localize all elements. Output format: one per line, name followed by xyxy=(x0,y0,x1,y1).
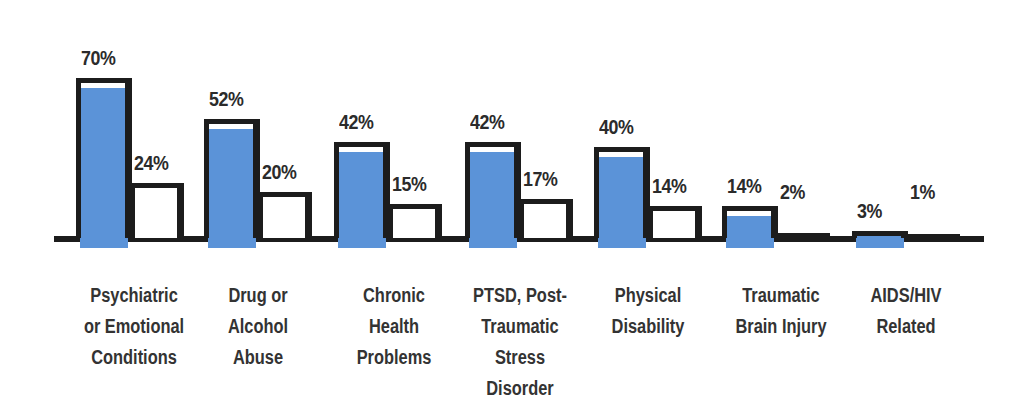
category-label-line: AIDS/HIV xyxy=(849,280,964,311)
bar-series1 xyxy=(594,147,650,238)
category-label: AIDS/HIVRelated xyxy=(849,280,964,342)
bar-series2 xyxy=(648,206,702,238)
bar-series2 xyxy=(906,234,960,239)
value-label-series2: 1% xyxy=(910,180,935,204)
category-label-line: Traumatic xyxy=(724,280,839,311)
value-label-series2: 20% xyxy=(262,160,296,184)
category-label: Psychiatricor EmotionalConditions xyxy=(77,280,192,373)
value-label-series2: 15% xyxy=(392,172,426,196)
category-label: Drug orAlcoholAbuse xyxy=(201,280,316,373)
bar-series1 xyxy=(852,231,908,238)
value-label-series2: 24% xyxy=(134,151,168,175)
bar-series1 xyxy=(204,119,260,238)
category-label-line: Drug or xyxy=(201,280,316,311)
value-label-series1: 52% xyxy=(209,87,243,111)
bar-series2 xyxy=(519,199,573,238)
bar-series2 xyxy=(776,233,830,238)
bar-series2 xyxy=(258,192,312,238)
value-label-series1: 42% xyxy=(470,110,504,134)
category-label-line: Physical xyxy=(591,280,706,311)
category-label-line: Related xyxy=(849,311,964,342)
category-label-line: Alcohol xyxy=(201,311,316,342)
category-label-line: Brain Injury xyxy=(724,311,839,342)
value-label-series1: 3% xyxy=(857,199,882,223)
category-label-line: PTSD, Post- xyxy=(463,280,578,311)
bar-series2 xyxy=(130,183,184,238)
category-label-line: Disorder xyxy=(463,373,578,404)
category-label: ChronicHealthProblems xyxy=(337,280,452,373)
bar-series2 xyxy=(388,204,442,238)
category-label: PTSD, Post-TraumaticStressDisorder xyxy=(463,280,578,404)
value-label-series2: 2% xyxy=(780,180,805,204)
bar-series1 xyxy=(334,142,390,238)
category-label: TraumaticBrain Injury xyxy=(724,280,839,342)
category-label: PhysicalDisability xyxy=(591,280,706,342)
bar-series1 xyxy=(76,78,132,238)
value-label-series1: 40% xyxy=(599,115,633,139)
category-label-line: Disability xyxy=(591,311,706,342)
category-label-line: or Emotional xyxy=(77,311,192,342)
category-label-line: Problems xyxy=(337,342,452,373)
category-label-line: Conditions xyxy=(77,342,192,373)
value-label-series2: 17% xyxy=(523,167,557,191)
category-label-line: Abuse xyxy=(201,342,316,373)
value-label-series2: 14% xyxy=(652,174,686,198)
value-label-series1: 14% xyxy=(727,174,761,198)
category-label-line: Stress xyxy=(463,342,578,373)
category-label-line: Traumatic xyxy=(463,311,578,342)
bar-chart: 70%24%Psychiatricor EmotionalConditions5… xyxy=(0,0,1032,420)
category-label-line: Psychiatric xyxy=(77,280,192,311)
category-label-line: Health xyxy=(337,311,452,342)
value-label-series1: 70% xyxy=(81,46,115,70)
bar-series1 xyxy=(722,206,778,238)
bar-series1 xyxy=(465,142,521,238)
value-label-series1: 42% xyxy=(339,110,373,134)
category-label-line: Chronic xyxy=(337,280,452,311)
